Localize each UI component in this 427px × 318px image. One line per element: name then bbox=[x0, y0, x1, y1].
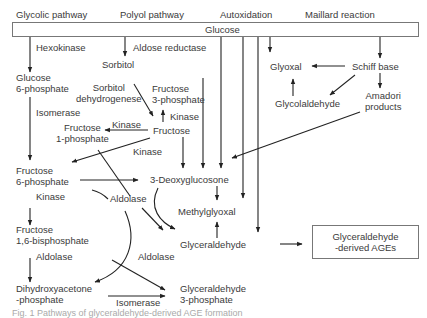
arrow-aldolase-g3p bbox=[112, 260, 165, 290]
node-g6p-line2: 6-phosphate bbox=[16, 83, 69, 94]
node-dhap-line2: -phosphate bbox=[16, 294, 92, 305]
node-fructose-1-phosphate: Fructose 1-phosphate bbox=[56, 122, 109, 144]
node-methylglyoxal: Methylglyoxal bbox=[178, 206, 236, 217]
line-f6p-aldolase bbox=[92, 190, 108, 199]
node-f3p-line2: 3-phosphate bbox=[152, 94, 205, 105]
node-amadori-line1: Amadori bbox=[365, 90, 401, 101]
header-polyol-pathway: Polyol pathway bbox=[120, 9, 184, 20]
node-f1p-line1: Fructose bbox=[56, 122, 109, 133]
node-schiff-base: Schiff base bbox=[352, 61, 399, 72]
header-autoxidation: Autoxidation bbox=[220, 9, 272, 20]
enzyme-kinase-f16bp: Kinase bbox=[36, 191, 65, 202]
enzyme-isomerase-bottom: Isomerase bbox=[116, 297, 160, 308]
node-amadori-line2: products bbox=[365, 101, 401, 112]
node-ages-line1: Glyceraldehyde bbox=[313, 231, 418, 242]
node-glucose-6-phosphate: Glucose 6-phosphate bbox=[16, 72, 69, 94]
enzyme-hexokinase: Hexokinase bbox=[36, 42, 86, 53]
glucose-label: Glucose bbox=[205, 24, 240, 35]
node-amadori-products: Amadori products bbox=[365, 90, 401, 112]
header-glycolic-pathway: Glycolic pathway bbox=[16, 9, 87, 20]
glyceraldehyde-derived-ages-box: Glyceraldehyde -derived AGEs bbox=[312, 225, 419, 259]
node-f1p-line2: 1-phosphate bbox=[56, 133, 109, 144]
enzyme-sorbitol-dehydrogenase: Sorbitol dehydrogenese bbox=[76, 82, 142, 104]
node-sorbitol: Sorbitol bbox=[102, 59, 134, 70]
arrow-amadori-deoxyglucosone bbox=[232, 112, 360, 158]
arrow-deoxyglucosone-glyceraldehyde bbox=[154, 188, 175, 229]
node-glycolaldehyde: Glycolaldehyde bbox=[275, 98, 340, 109]
node-fructose-3-phosphate: Fructose 3-phosphate bbox=[152, 83, 205, 105]
node-3-deoxyglucosone: 3-Deoxyglucosone bbox=[150, 174, 229, 185]
node-dhap-line1: Dihydroxyacetone bbox=[16, 283, 92, 294]
node-g3p-line2: 3-phosphate bbox=[180, 294, 246, 305]
node-f3p-line1: Fructose bbox=[152, 83, 205, 94]
enzyme-aldolase-mid: Aldolase bbox=[110, 193, 146, 204]
line-f1p-aldolase bbox=[98, 150, 130, 196]
node-glyoxal: Glyoxal bbox=[270, 61, 302, 72]
glucose-bar: Glucose bbox=[12, 22, 419, 37]
node-glyceraldehyde-derived-ages: Glyceraldehyde -derived AGEs bbox=[313, 231, 418, 253]
node-f16bp-line1: Fructose bbox=[16, 224, 89, 235]
enzyme-kinase-f1p: Kinase bbox=[112, 119, 141, 130]
enzyme-kinase-f6p: Kinase bbox=[133, 146, 162, 157]
node-glyceraldehyde: Glyceraldehyde bbox=[180, 239, 246, 250]
enzyme-sorbitol-dh-line2: dehydrogenese bbox=[76, 93, 142, 104]
node-glyceraldehyde-3-phosphate: Glyceraldehyde 3-phosphate bbox=[180, 283, 246, 305]
header-maillard-reaction: Maillard reaction bbox=[305, 9, 375, 20]
enzyme-aldose-reductase: Aldose reductase bbox=[133, 42, 206, 53]
node-dihydroxyacetone-phosphate: Dihydroxyacetone -phosphate bbox=[16, 283, 92, 305]
arrow-schiff-glycolaldehyde bbox=[330, 75, 355, 95]
node-g6p-line1: Glucose bbox=[16, 72, 69, 83]
node-f6p-line1: Fructose bbox=[16, 165, 69, 176]
enzyme-aldolase-left: Aldolase bbox=[36, 251, 72, 262]
enzyme-kinase-f3p: Kinase bbox=[170, 111, 199, 122]
arrow-aldolase-dhap bbox=[95, 211, 131, 282]
node-f6p-line2: 6-phosphate bbox=[16, 176, 69, 187]
node-g3p-line1: Glyceraldehyde bbox=[180, 283, 246, 294]
node-fructose: Fructose bbox=[153, 125, 190, 136]
node-fructose-1-6-bisphosphate: Fructose 1,6-bisphosphate bbox=[16, 224, 89, 246]
arrow-aldolase-glyceraldehyde bbox=[142, 208, 163, 230]
node-ages-line2: -derived AGEs bbox=[313, 242, 418, 253]
enzyme-aldolase-right: Aldolase bbox=[138, 251, 174, 262]
node-fructose-6-phosphate: Fructose 6-phosphate bbox=[16, 165, 69, 187]
enzyme-isomerase-top: Isomerase bbox=[36, 107, 80, 118]
figure-caption: Fig. 1 Pathways of glyceraldehyde-derive… bbox=[12, 308, 243, 318]
enzyme-sorbitol-dh-line1: Sorbitol bbox=[76, 82, 142, 93]
node-f16bp-line2: 1,6-bisphosphate bbox=[16, 235, 89, 246]
